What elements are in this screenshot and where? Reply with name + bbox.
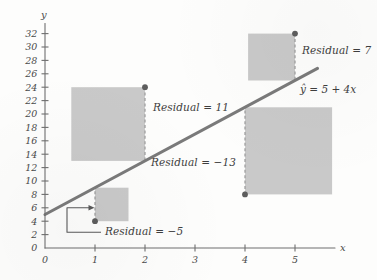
y-tick-label-8: 8 <box>31 189 37 200</box>
annotation-regression-equation: ŷ = 5 + 4x <box>299 83 356 95</box>
leader-arrowhead <box>89 205 95 210</box>
x-axis-label: x <box>340 242 346 253</box>
annotation-residual-11: Residual = 11 <box>152 101 229 113</box>
y-tick-label-20: 20 <box>24 108 37 119</box>
x-axis-tick-labels: 012345 <box>42 254 298 265</box>
y-axis-tick-labels: 02468101214161820222426283032 <box>24 28 37 253</box>
y-tick-label-16: 16 <box>25 135 37 146</box>
y-tick-label-14: 14 <box>25 149 37 160</box>
y-tick-label-12: 12 <box>25 162 37 173</box>
x-tick-label-4: 4 <box>241 254 248 265</box>
x-tick-label-3: 3 <box>192 254 198 265</box>
y-tick-label-6: 6 <box>31 202 37 213</box>
y-tick-label-0: 0 <box>31 242 37 253</box>
y-axis-label: y <box>40 9 47 20</box>
data-point-x4 <box>242 192 248 198</box>
y-tick-label-26: 26 <box>24 68 37 79</box>
residual-squares-layer <box>71 34 332 222</box>
data-point-x1 <box>92 218 98 224</box>
y-tick-label-30: 30 <box>25 41 37 52</box>
y-tick-label-28: 28 <box>24 55 37 66</box>
residual-square-x1 <box>95 188 129 222</box>
chart-canvas: 02468101214161820222426283032 012345 y x… <box>0 0 377 280</box>
data-point-x5 <box>292 31 298 37</box>
x-tick-label-2: 2 <box>141 254 148 265</box>
x-tick-label-0: 0 <box>42 254 48 265</box>
y-tick-label-4: 4 <box>30 216 37 227</box>
y-tick-label-22: 22 <box>24 95 37 106</box>
residual-square-x4 <box>245 107 332 194</box>
y-tick-label-10: 10 <box>25 175 37 186</box>
y-tick-label-2: 2 <box>30 229 37 240</box>
y-tick-label-32: 32 <box>25 28 37 39</box>
annotation-residual-neg13: Residual = −13 <box>150 156 236 168</box>
residual-square-x5 <box>248 34 295 81</box>
x-tick-label-1: 1 <box>92 254 98 265</box>
y-tick-label-18: 18 <box>25 122 37 133</box>
x-tick-label-5: 5 <box>292 254 298 265</box>
y-tick-label-24: 24 <box>24 82 37 93</box>
residual-square-x2 <box>71 87 145 161</box>
annotation-residual-neg5: Residual = −5 <box>104 225 183 237</box>
data-point-x2 <box>142 84 148 90</box>
residual-squares-chart: 02468101214161820222426283032 012345 y x… <box>0 0 377 280</box>
annotation-residual-7: Residual = 7 <box>301 44 372 56</box>
